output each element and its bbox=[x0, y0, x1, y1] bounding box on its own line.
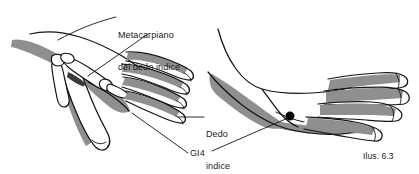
label-metacarpal: Metacarpiano del dedo indice bbox=[118, 9, 180, 93]
gi4-point-dot bbox=[286, 112, 294, 120]
leader-line-metacarpal-left bbox=[58, 17, 116, 40]
right-hand-illustration bbox=[208, 29, 409, 141]
label-acupoint-gi4: GI4 bbox=[190, 148, 205, 159]
label-metacarpal-line1: Metacarpiano bbox=[118, 30, 180, 41]
label-metacarpal-line2: del dedo indice bbox=[118, 62, 180, 73]
figure-caption: Ilus. 6.3 bbox=[363, 151, 394, 162]
label-index-finger-line2: indice bbox=[206, 161, 230, 172]
label-index-finger-line1: Dedo bbox=[206, 129, 230, 140]
anatomical-figure: Metacarpiano del dedo indice Dedo indice… bbox=[0, 0, 419, 174]
leader-line-gi4-left bbox=[132, 113, 188, 153]
label-index-finger: Dedo indice bbox=[206, 108, 230, 174]
carpal-bone-fragment bbox=[61, 53, 74, 63]
